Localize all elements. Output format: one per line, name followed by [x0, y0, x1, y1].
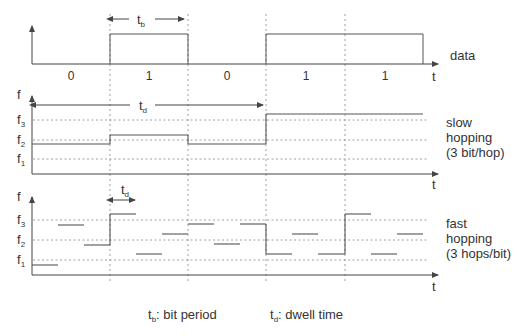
level-f2: f2 [17, 232, 26, 249]
fast-hop-signal [32, 214, 423, 265]
level-f3: f3 [17, 212, 26, 229]
fast-t-axis-label: t [432, 279, 436, 294]
bit-period-label: tb [137, 12, 146, 29]
bit-value: 0 [68, 69, 75, 83]
fast-hopping-title: fast hopping (3 hops/bit) [446, 216, 511, 261]
slow-f-axis-label: f [17, 87, 21, 102]
bit-value: 0 [224, 69, 231, 83]
bit-value: 1 [303, 69, 310, 83]
bit-boundaries [110, 14, 345, 282]
data-waveform [110, 34, 188, 64]
legend: tb: bit period td: dwell time [148, 307, 343, 324]
data-t-axis-label: t [432, 69, 436, 84]
data-label: data [450, 48, 476, 63]
slow-hopping-title: slow hopping (3 bit/hop) [446, 115, 505, 160]
fast-dwell-label: td [121, 182, 129, 199]
level-f1: f1 [17, 151, 26, 168]
slow-hopping-panel: f f3 f2 f1 td slow hopping (3 bit/hop) [17, 87, 505, 192]
legend-bit-period: tb: bit period [148, 307, 217, 324]
fhss-diagram: tb 0 1 0 1 1 t data f f3 f2 f1 td [0, 0, 518, 336]
slow-hop-signal [32, 114, 423, 144]
level-f3: f3 [17, 112, 26, 129]
level-f1: f1 [17, 252, 26, 269]
fast-f-axis-label: f [17, 189, 21, 204]
level-f2: f2 [17, 132, 26, 149]
legend-dwell-time: td: dwell time [270, 307, 343, 324]
bit-value: 1 [146, 69, 153, 83]
bit-value: 1 [382, 69, 389, 83]
slow-t-axis-label: t [432, 177, 436, 192]
data-panel: tb 0 1 0 1 1 t data [32, 12, 476, 84]
data-waveform-2 [266, 34, 423, 64]
fast-hopping-panel: f f3 f2 f1 td [17, 182, 511, 294]
dwell-time-label: td [139, 98, 147, 115]
